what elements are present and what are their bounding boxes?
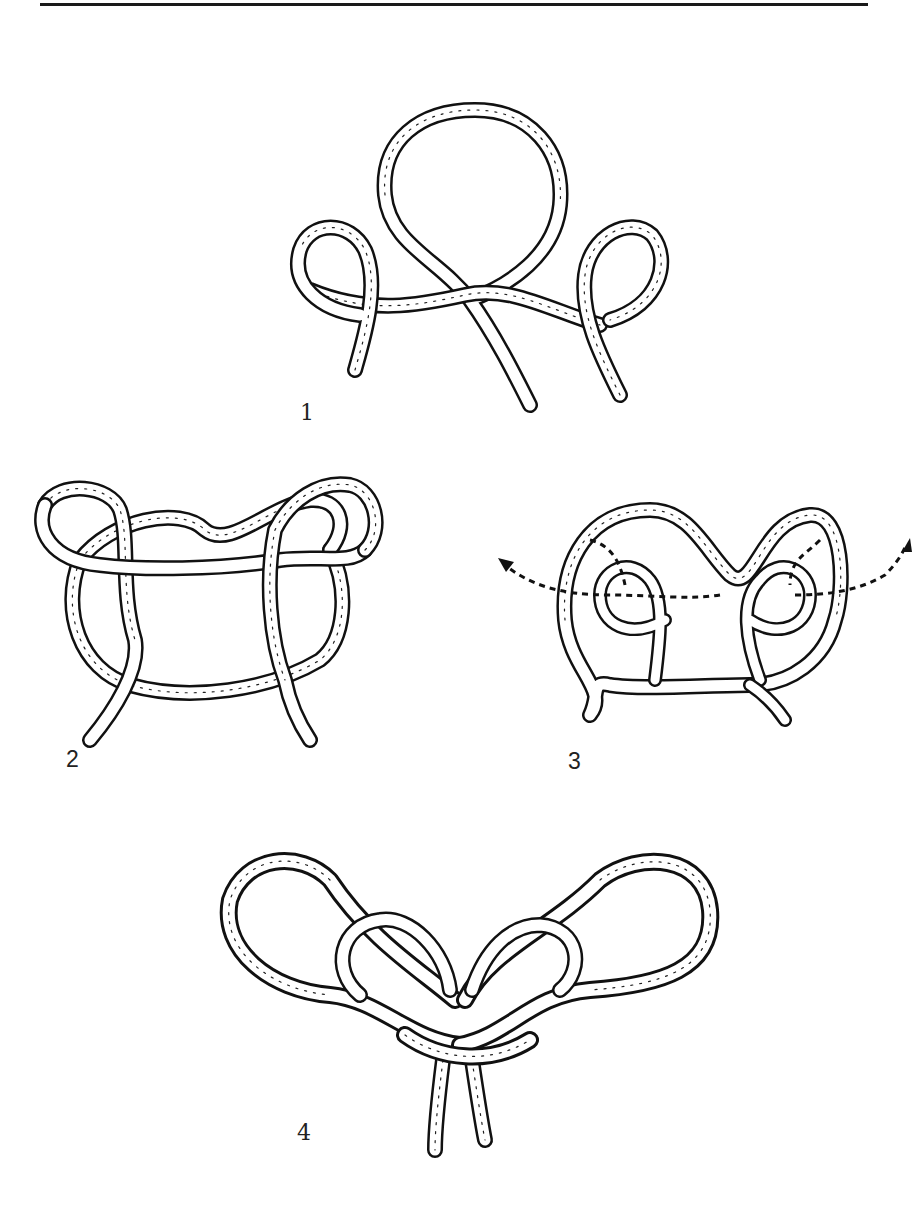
rope-illustration-3 <box>490 500 921 730</box>
rope-illustration-1 <box>280 95 680 415</box>
rope-step-4 <box>229 861 711 1150</box>
figure-step-3 <box>490 500 921 730</box>
step-label-2: 2 <box>66 748 79 771</box>
step-label-4: 4 <box>297 1122 311 1144</box>
step-label-1: 1 <box>300 402 314 424</box>
rope-step-1 <box>298 110 661 405</box>
rope-illustration-2 <box>20 470 400 750</box>
step-label-3: 3 <box>568 750 581 773</box>
arrowhead-right-icon <box>902 538 912 552</box>
rope-step-3 <box>564 510 840 720</box>
rope-step-2 <box>42 484 376 740</box>
figure-step-4 <box>210 840 750 1160</box>
rope-illustration-4 <box>210 840 750 1160</box>
top-rule <box>40 3 868 6</box>
figure-step-2 <box>20 470 400 750</box>
figure-step-1 <box>280 95 680 415</box>
